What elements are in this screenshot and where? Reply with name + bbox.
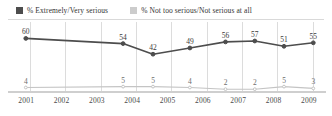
data-point-marker <box>151 52 155 56</box>
data-point-label: 5 <box>121 77 125 85</box>
data-point-label: 5 <box>282 77 286 85</box>
data-point-label: 60 <box>22 28 30 36</box>
x-axis-labels: 200120022003200420052006200720082009 <box>0 96 332 110</box>
legend-label: % Not too serious/Not serious at all <box>141 6 252 15</box>
data-point-label: 51 <box>280 36 288 44</box>
data-point-label: 2 <box>224 79 228 87</box>
data-point-label: 2 <box>253 79 257 87</box>
x-axis-tick-label: 2009 <box>301 96 317 105</box>
legend-divider <box>8 19 324 20</box>
data-point-marker <box>121 42 125 46</box>
legend-label: % Extremely/Very serious <box>27 6 108 15</box>
chart-legend: % Extremely/Very serious % Not too serio… <box>0 2 332 18</box>
data-point-label: 42 <box>149 44 157 52</box>
data-point-label: 5 <box>151 77 155 85</box>
x-axis-tick-label: 2001 <box>18 96 34 105</box>
line-chart: % Extremely/Very serious % Not too serio… <box>0 0 332 116</box>
x-axis-tick-label: 2003 <box>89 96 105 105</box>
series-line <box>26 38 314 54</box>
data-point-marker <box>224 40 228 44</box>
data-point-label: 56 <box>222 32 230 40</box>
data-point-marker <box>152 85 155 88</box>
x-axis-tick-label: 2007 <box>230 96 246 105</box>
data-point-label: 55 <box>310 33 318 41</box>
data-point-marker <box>311 41 315 45</box>
data-point-marker <box>283 85 286 88</box>
data-point-label: 57 <box>251 31 259 39</box>
data-point-label: 49 <box>186 38 194 46</box>
legend-swatch-icon <box>16 7 23 14</box>
x-axis-line <box>8 91 326 93</box>
data-point-label: 4 <box>24 78 28 86</box>
data-point-marker <box>24 37 28 41</box>
x-axis-tick-label: 2006 <box>195 96 211 105</box>
data-point-label: 54 <box>119 34 127 42</box>
legend-item-extremely-very-serious: % Extremely/Very serious <box>16 6 108 15</box>
data-point-marker <box>24 86 27 89</box>
legend-swatch-icon <box>130 7 137 14</box>
data-point-marker <box>122 85 125 88</box>
x-axis-tick-label: 2008 <box>266 96 282 105</box>
data-point-label: 4 <box>188 78 192 86</box>
series-line <box>26 87 314 90</box>
data-point-marker <box>312 87 315 90</box>
data-point-label: 3 <box>311 78 315 86</box>
data-point-marker <box>189 86 192 89</box>
data-point-marker <box>253 39 257 43</box>
data-point-marker <box>188 46 192 50</box>
plot-area: 605442495657515545542253 <box>0 22 332 92</box>
legend-item-not-too-serious: % Not too serious/Not serious at all <box>130 6 252 15</box>
x-axis-tick-label: 2004 <box>124 96 140 105</box>
x-axis-tick-label: 2005 <box>160 96 176 105</box>
x-axis-tick-label: 2002 <box>54 96 70 105</box>
data-point-marker <box>282 44 286 48</box>
